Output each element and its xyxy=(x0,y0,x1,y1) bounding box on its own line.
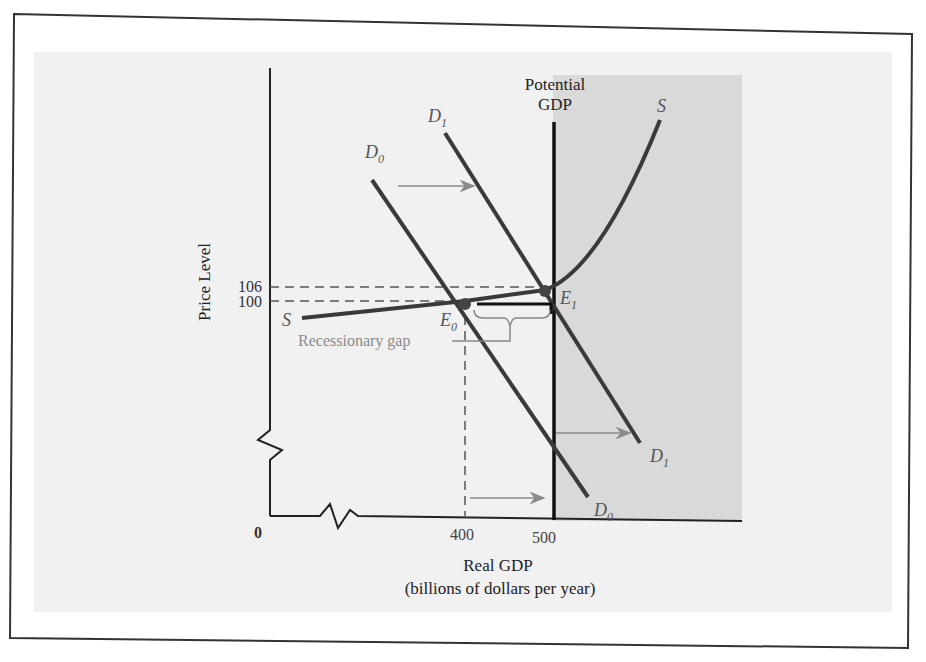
point-e0 xyxy=(459,298,471,310)
y-axis-label: Price Level xyxy=(195,243,214,321)
shaded-region xyxy=(553,75,742,521)
point-e1 xyxy=(539,285,551,297)
page-frame xyxy=(10,14,912,648)
x-tick-0: 0 xyxy=(254,524,262,541)
y-tick-100: 100 xyxy=(238,293,262,310)
chart-figure: Potential GDP S S D1 D0 D1 D0 E0 E1 106 … xyxy=(0,0,926,662)
x-tick-400: 400 xyxy=(450,526,474,543)
x-tick-500: 500 xyxy=(532,529,556,546)
potential-label-2: GDP xyxy=(538,95,572,114)
label-s-left: S xyxy=(282,310,291,330)
x-axis-label: Real GDP xyxy=(463,556,532,575)
potential-label-1: Potential xyxy=(525,75,586,94)
gap-label: Recessionary gap xyxy=(298,332,410,350)
x-axis-sublabel: (billions of dollars per year) xyxy=(405,579,596,598)
label-s-top: S xyxy=(657,96,666,116)
